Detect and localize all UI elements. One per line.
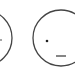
- left-face-outline: [0, 10, 12, 66]
- left-face: [0, 10, 12, 66]
- right-face: [33, 10, 75, 66]
- right-face-outline: [33, 10, 75, 66]
- right-face-eye-icon: [46, 40, 49, 43]
- left-face-eye-icon: [0, 39, 2, 41]
- faces-canvas: [0, 0, 75, 74]
